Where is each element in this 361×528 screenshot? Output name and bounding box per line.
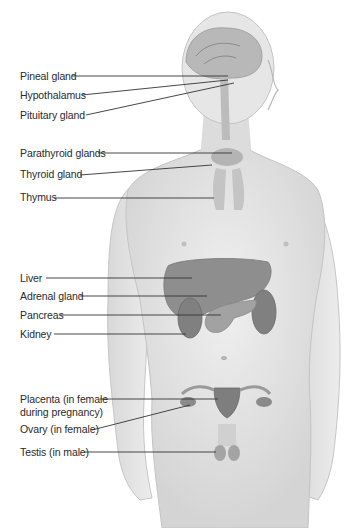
endocrine-diagram: Pineal gland Hypothalamus Pituitary glan… xyxy=(0,0,361,528)
ovary-right xyxy=(256,397,272,407)
label-pituitary-gland: Pituitary gland xyxy=(20,109,85,122)
thyroid xyxy=(211,148,243,166)
label-pancreas: Pancreas xyxy=(20,309,64,322)
testis-left xyxy=(214,445,226,461)
label-kidney: Kidney xyxy=(20,328,52,341)
kidney-right xyxy=(252,290,276,334)
testis-right xyxy=(228,445,240,461)
label-testis: Testis (in male) xyxy=(20,446,89,459)
label-ovary: Ovary (in female) xyxy=(20,423,99,436)
label-liver: Liver xyxy=(20,272,42,285)
brain xyxy=(186,28,262,79)
label-thyroid-gland: Thyroid gland xyxy=(20,168,82,181)
label-hypothalamus: Hypothalamus xyxy=(20,89,86,102)
label-placenta-line2: during pregnancy) xyxy=(20,406,103,419)
label-placenta: Placenta (in female xyxy=(20,393,108,406)
torso xyxy=(126,150,325,528)
label-thymus: Thymus xyxy=(20,191,57,204)
label-pineal-gland: Pineal gland xyxy=(20,70,77,83)
label-parathyroid-glands: Parathyroid glands xyxy=(20,147,106,160)
kidney-left xyxy=(178,298,202,338)
label-adrenal-gland: Adrenal gland xyxy=(20,290,84,303)
